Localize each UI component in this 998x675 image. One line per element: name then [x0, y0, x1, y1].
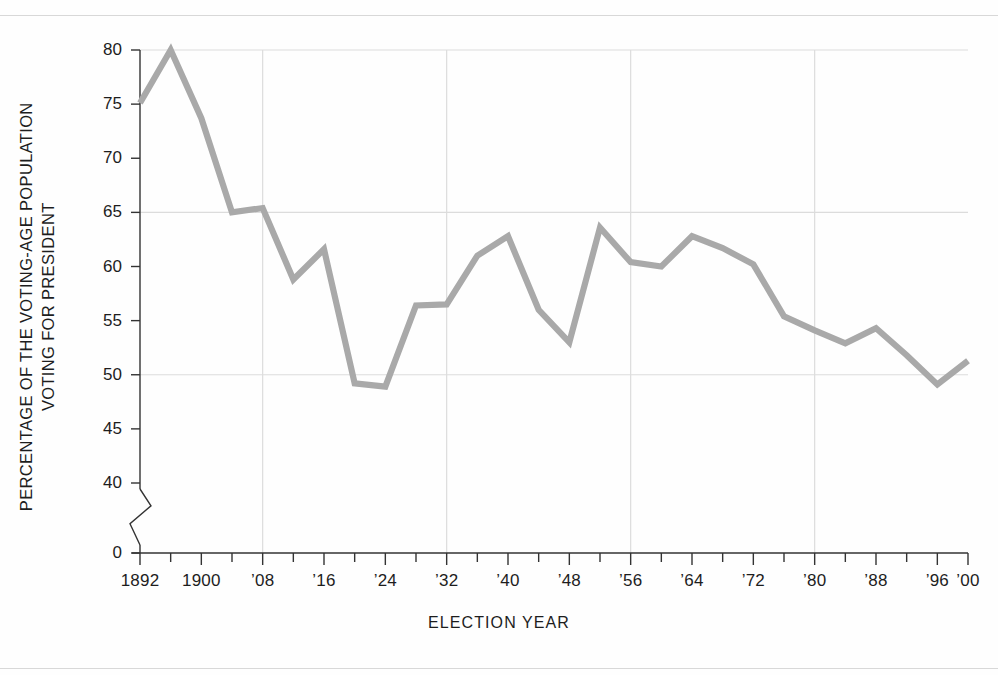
- axes: [130, 50, 968, 553]
- x-tick-label: ’00: [956, 571, 979, 591]
- gridlines: [140, 50, 968, 553]
- x-tick-label: 1892: [121, 571, 160, 591]
- y-tick-label: 50: [60, 365, 122, 385]
- x-tick-label: ’08: [251, 571, 274, 591]
- y-tick-label: 80: [60, 40, 122, 60]
- x-tick-label: ’56: [619, 571, 642, 591]
- y-tick-label: 65: [60, 202, 122, 222]
- x-axis-title: ELECTION YEAR: [0, 614, 998, 632]
- x-tick-label: ’32: [435, 571, 458, 591]
- y-tick-label: 70: [60, 148, 122, 168]
- axis-ticks: [131, 50, 968, 565]
- x-tick-label: ’64: [680, 571, 703, 591]
- y-tick-label: 75: [60, 94, 122, 114]
- y-tick-label: 60: [60, 257, 122, 277]
- x-tick-label: ’72: [742, 571, 765, 591]
- x-tick-label: ’40: [496, 571, 519, 591]
- x-tick-label: 1900: [182, 571, 221, 591]
- x-tick-label: ’24: [374, 571, 397, 591]
- chart-figure: PERCENTAGE OF THE VOTING-AGE POPULATION …: [0, 0, 998, 675]
- x-tick-label: ’80: [803, 571, 826, 591]
- y-axis-break-zigzag: [130, 489, 151, 545]
- y-tick-label: 55: [60, 311, 122, 331]
- y-tick-label: 45: [60, 419, 122, 439]
- x-tick-label: ’16: [312, 571, 335, 591]
- x-tick-label: ’48: [558, 571, 581, 591]
- y-tick-label: 40: [60, 473, 122, 493]
- x-tick-label: ’96: [926, 571, 949, 591]
- data-series: [140, 50, 968, 387]
- x-tick-label: ’88: [864, 571, 887, 591]
- y-tick-label: 0: [60, 543, 122, 563]
- series-line-voter-turnout: [140, 50, 968, 387]
